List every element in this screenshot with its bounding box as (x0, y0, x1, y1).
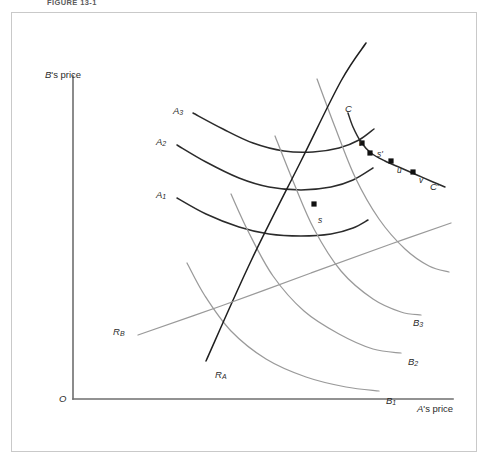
curve-a2 (177, 145, 373, 190)
x-axis-label: A's price (417, 403, 453, 414)
point-marker-s (311, 201, 316, 206)
contract-curve-label-start: C (345, 103, 352, 114)
curve-label-rb: RB (113, 326, 125, 337)
curve-b3 (275, 136, 421, 315)
point-marker-u (388, 158, 393, 163)
point-label-u: u (397, 165, 402, 175)
curve-label-b2: B2 (408, 356, 418, 367)
point-marker-v (410, 169, 415, 174)
point-label-v: v (419, 175, 423, 185)
curve-label-a2: A2 (156, 136, 166, 147)
point-label-t: t (359, 138, 361, 148)
diagram-canvas (12, 13, 476, 451)
figure-frame: A1A2A3B1B2B3RARBCC'sts'uvB's priceA's pr… (11, 12, 477, 452)
figure-root: FIGURE 13-1 A1A2A3B1B2B3RARBCC'sts'uvB's… (0, 0, 489, 465)
point-marker-s_prime_dot (367, 150, 372, 155)
point-label-s_prime: s' (377, 149, 383, 159)
curve-label-a1: A1 (156, 189, 166, 200)
curve-cc (348, 113, 445, 187)
curve-label-a3: A3 (173, 105, 183, 116)
curve-rb (138, 223, 451, 335)
figure-caption: FIGURE 13-1 (47, 0, 97, 7)
y-axis-label: B's price (45, 69, 81, 80)
curve-b2 (231, 194, 401, 353)
curve-ra (206, 43, 366, 361)
curve-b4 (317, 79, 449, 272)
curve-label-b3: B3 (413, 317, 423, 328)
curve-label-ra: RA (215, 369, 227, 380)
curve-a3 (193, 113, 374, 152)
origin-label: O (59, 393, 66, 404)
curve-label-b1: B1 (386, 395, 396, 406)
point-label-s: s (318, 215, 322, 225)
contract-curve-label-end: C' (430, 181, 439, 192)
